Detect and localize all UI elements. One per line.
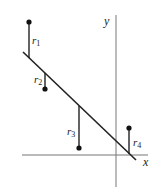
residual-diagram: y x r1 r2 r3 r4 <box>0 0 156 188</box>
residual-label-2: r2 <box>34 73 42 87</box>
residual-1 <box>26 19 31 58</box>
y-axis-label: y <box>103 14 110 28</box>
x-axis-label: x <box>142 155 149 169</box>
residual-label-1: r1 <box>32 34 40 48</box>
residual-label-4: r4 <box>133 136 141 150</box>
residual-3 <box>76 106 81 151</box>
residual-4 <box>126 125 131 154</box>
residual-label-3: r3 <box>67 125 75 139</box>
